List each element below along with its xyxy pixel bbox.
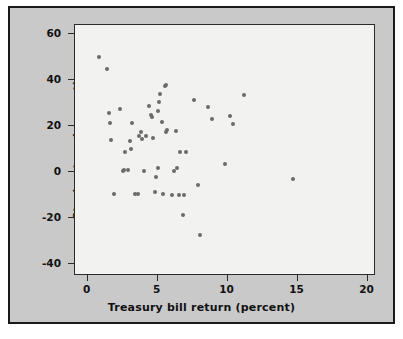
x-tick-mark (297, 275, 298, 281)
y-tick-label: 0 (54, 165, 61, 177)
data-point (181, 213, 185, 217)
data-point (210, 117, 214, 121)
data-point (150, 115, 154, 119)
y-tick-label: 60 (46, 27, 61, 39)
figure-panel: Stock return (percent) 6040200-20-40 051… (10, 8, 393, 322)
data-point (174, 129, 178, 133)
x-tick-label: 15 (289, 283, 304, 295)
y-tick-mark (68, 263, 74, 264)
data-point (157, 100, 161, 104)
y-tick-label: -40 (42, 257, 61, 269)
data-point (109, 138, 113, 142)
y-tick-label: 20 (46, 119, 61, 131)
data-point (108, 121, 112, 125)
data-point (172, 169, 176, 173)
data-point (153, 190, 157, 194)
data-point (130, 121, 134, 125)
data-point (158, 92, 162, 96)
data-point (223, 162, 227, 166)
data-point (105, 67, 109, 71)
data-point (123, 150, 127, 154)
data-point (122, 168, 126, 172)
y-tick-label: -20 (42, 211, 61, 223)
x-axis-title: Treasury bill return (percent) (10, 301, 393, 314)
data-point (182, 193, 186, 197)
data-point (142, 169, 146, 173)
data-point (228, 114, 232, 118)
x-tick-mark (367, 275, 368, 281)
data-point (136, 192, 140, 196)
y-tick-mark (68, 33, 74, 34)
data-point (156, 109, 160, 113)
y-tick-mark (68, 171, 74, 172)
data-point (144, 134, 148, 138)
y-tick-mark (68, 79, 74, 80)
figure-frame: Stock return (percent) 6040200-20-40 051… (8, 6, 395, 324)
x-tick-label: 20 (359, 283, 374, 295)
y-tick-mark (68, 217, 74, 218)
x-tick-mark (87, 275, 88, 281)
data-point (160, 120, 164, 124)
data-point (107, 111, 111, 115)
scatter-figure: Stock return (percent) 6040200-20-40 051… (0, 0, 403, 339)
data-point (196, 183, 200, 187)
data-point (198, 233, 202, 237)
data-point (178, 150, 182, 154)
data-point (242, 93, 246, 97)
data-point (97, 55, 101, 59)
data-point (147, 104, 151, 108)
y-axis-title-container: Stock return (percent) (14, 24, 32, 275)
data-point (161, 192, 165, 196)
x-tick-label: 0 (83, 283, 90, 295)
data-point (126, 168, 130, 172)
data-point (118, 107, 122, 111)
x-tick-mark (157, 275, 158, 281)
x-tick-label: 5 (153, 283, 160, 295)
data-point (184, 150, 188, 154)
plot-area (74, 24, 375, 275)
data-point (165, 128, 169, 132)
y-tick-mark (68, 125, 74, 126)
data-point (175, 166, 179, 170)
data-point (156, 166, 160, 170)
x-tick-mark (227, 275, 228, 281)
data-point (231, 122, 235, 126)
data-point (164, 83, 168, 87)
data-point (112, 192, 116, 196)
y-tick-label: 40 (46, 73, 61, 85)
data-point (206, 105, 210, 109)
data-point (291, 177, 295, 181)
data-point (139, 130, 143, 134)
data-point (192, 98, 196, 102)
x-tick-label: 10 (219, 283, 234, 295)
data-point (154, 175, 158, 179)
data-point (151, 136, 155, 140)
data-point (129, 147, 133, 151)
data-point (170, 193, 174, 197)
data-point (140, 137, 144, 141)
data-point (177, 193, 181, 197)
data-point (128, 139, 132, 143)
